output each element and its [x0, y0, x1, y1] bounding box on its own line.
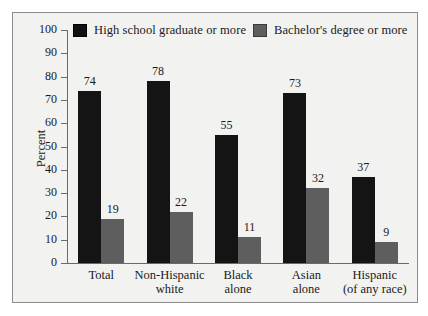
bar: 74 [78, 91, 101, 263]
bar-value-label: 11 [244, 220, 256, 235]
bar: 11 [238, 237, 261, 263]
bar-value-label: 74 [84, 74, 96, 89]
y-tick-label-20: 20 [45, 208, 57, 223]
y-tick-label-0: 0 [51, 255, 57, 270]
x-axis-category-line: Non-Hispanic [135, 268, 205, 282]
x-axis-category-label: Total [88, 268, 114, 282]
bar-pair: 379 [352, 30, 398, 263]
bar: 73 [283, 93, 306, 263]
y-tick-label-100: 100 [39, 22, 57, 37]
y-tick-label-70: 70 [45, 92, 57, 107]
bar-value-label: 22 [175, 195, 187, 210]
x-axis-category-line: Total [88, 268, 114, 282]
bar-value-label: 32 [312, 171, 324, 186]
y-tick-100: 100 [61, 30, 68, 31]
y-tick-0: 0 [61, 263, 68, 264]
y-tick-label-40: 40 [45, 162, 57, 177]
bar-group: 7419Total [78, 30, 124, 263]
bar-group: 7332Asianalone [283, 30, 329, 263]
bar-group: 379Hispanic(of any race) [352, 30, 398, 263]
y-tick-60: 60 [61, 123, 68, 124]
bar-value-label: 78 [152, 64, 164, 79]
y-tick-label-60: 60 [45, 115, 57, 130]
bar-group: 7822Non-Hispanicwhite [147, 30, 193, 263]
y-tick-10: 10 [61, 240, 68, 241]
x-axis-category-line: alone [292, 282, 321, 296]
y-tick-label-10: 10 [45, 232, 57, 247]
y-tick-label-90: 90 [45, 45, 57, 60]
y-tick-90: 90 [61, 53, 68, 54]
bar-pair: 7822 [147, 30, 193, 263]
x-axis-category-label: Hispanic(of any race) [343, 268, 407, 296]
x-axis-category-line: Black [223, 268, 252, 282]
bar-value-label: 9 [383, 225, 389, 240]
x-axis-line [66, 263, 409, 264]
y-tick-label-80: 80 [45, 69, 57, 84]
x-axis-category-line: white [135, 282, 205, 296]
chart-figure-frame: High school graduate or more Bachelor's … [12, 12, 418, 303]
bar: 9 [375, 242, 398, 263]
x-axis-category-line: Asian [292, 268, 321, 282]
bar-value-label: 37 [357, 160, 369, 175]
y-tick-30: 30 [61, 193, 68, 194]
plot-area: 1009080706050403020100 7419Total7822Non-… [67, 30, 409, 268]
bar: 55 [215, 135, 238, 263]
y-tick-label-30: 30 [45, 185, 57, 200]
bar-pair: 7332 [283, 30, 329, 263]
x-axis-category-line: Hispanic [343, 268, 407, 282]
y-tick-label-50: 50 [45, 139, 57, 154]
y-tick-50: 50 [61, 147, 68, 148]
x-axis-category-label: Asianalone [292, 268, 321, 296]
bar: 19 [101, 219, 124, 263]
y-tick-40: 40 [61, 170, 68, 171]
bar: 78 [147, 81, 170, 263]
bar: 37 [352, 177, 375, 263]
x-axis-category-line: alone [223, 282, 252, 296]
y-tick-20: 20 [61, 216, 68, 217]
bar-group: 5511Blackalone [215, 30, 261, 263]
bar-pair: 7419 [78, 30, 124, 263]
bar-value-label: 55 [221, 118, 233, 133]
x-axis-category-line: (of any race) [343, 282, 407, 296]
y-tick-80: 80 [61, 77, 68, 78]
bar: 22 [170, 212, 193, 263]
x-axis-category-label: Blackalone [223, 268, 252, 296]
bar-pair: 5511 [215, 30, 261, 263]
bar-value-label: 73 [289, 76, 301, 91]
x-axis-category-label: Non-Hispanicwhite [135, 268, 205, 296]
bar: 32 [306, 188, 329, 263]
bar-value-label: 19 [107, 202, 119, 217]
y-tick-70: 70 [61, 100, 68, 101]
